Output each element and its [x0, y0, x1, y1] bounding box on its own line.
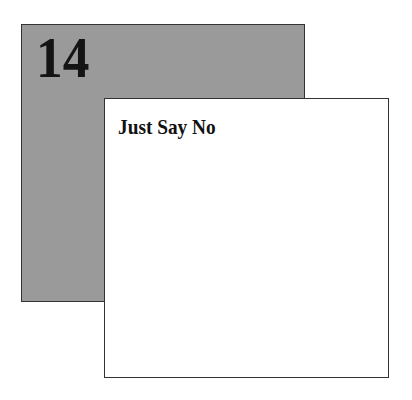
chapter-title-panel: Just Say No — [104, 98, 389, 378]
chapter-title: Just Say No — [118, 117, 216, 138]
chapter-number: 14 — [36, 29, 89, 87]
